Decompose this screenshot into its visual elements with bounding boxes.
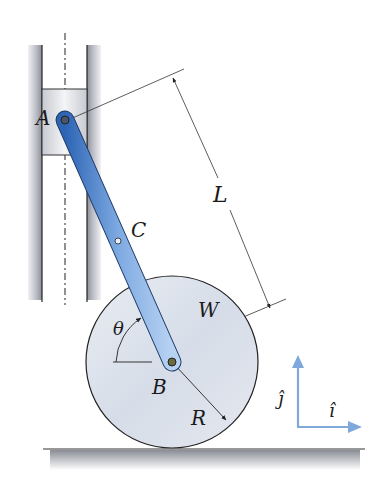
unit-vectors	[292, 355, 362, 433]
label-radius: R	[191, 408, 206, 428]
mechanism-figure: A B C L W θ R ĵ î	[0, 0, 385, 484]
label-point-c: C	[131, 220, 146, 240]
label-weight: W	[198, 300, 219, 320]
label-unit-j: ĵ	[278, 390, 284, 408]
label-unit-i: î	[329, 402, 335, 420]
label-length: L	[213, 184, 228, 206]
ground	[43, 449, 365, 470]
label-point-b: B	[152, 377, 167, 397]
label-point-a: A	[36, 108, 50, 128]
label-angle: θ	[113, 320, 124, 338]
